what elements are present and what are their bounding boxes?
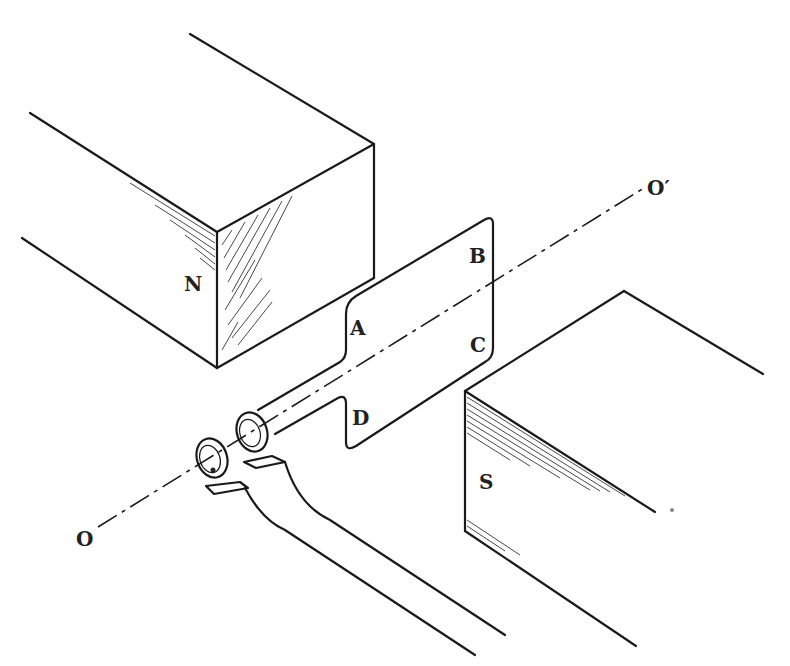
coil-corner-c-label: C <box>470 333 486 357</box>
south-pole-label: S <box>479 470 493 494</box>
brush-lead-2 <box>285 462 505 635</box>
north-magnet <box>22 34 374 368</box>
brush-lead-1 <box>245 488 475 655</box>
south-magnet <box>465 291 763 646</box>
coil-abcd <box>258 218 493 448</box>
coil-corner-a-label: A <box>349 316 366 340</box>
axis-end-label: O′ <box>647 176 670 200</box>
axis-start-label: O <box>76 527 93 551</box>
coil-corner-d-label: D <box>352 406 369 430</box>
coil-corner-b-label: B <box>469 244 486 268</box>
north-pole-label: N <box>184 272 202 296</box>
rotation-axis <box>98 188 644 527</box>
generator-diagram: N O O′ A B C D <box>0 0 790 666</box>
